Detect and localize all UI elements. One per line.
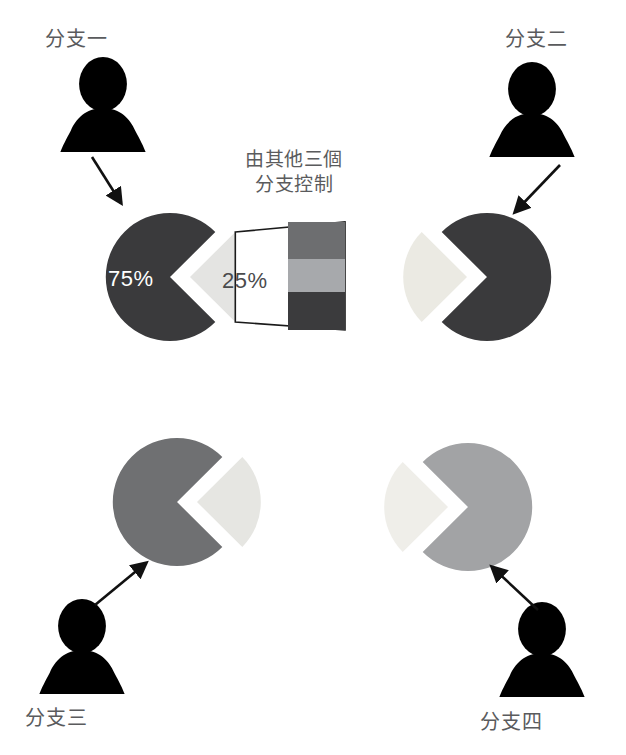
- pie-1-major-value: 75%: [108, 268, 154, 290]
- arrow-branch-2: [515, 165, 560, 212]
- pie-3-major-slice: [113, 438, 223, 566]
- callout-stacked-bar: [288, 222, 345, 330]
- callout-caption-line-2: 分支控制: [228, 172, 360, 197]
- pie-4-major-slice: [423, 443, 533, 571]
- arrow-branch-3: [95, 563, 146, 605]
- pie-2-major-slice: [442, 213, 552, 341]
- pie-4-minor-slice: [384, 462, 448, 552]
- callout-caption-line-1: 由其他三個: [228, 147, 360, 172]
- branch-label-1: 分支一: [45, 29, 108, 49]
- branch-label-2: 分支二: [505, 29, 568, 49]
- arrow-branch-4: [492, 567, 538, 610]
- branch-label-3: 分支三: [25, 708, 88, 728]
- callout-caption: 由其他三個 分支控制: [228, 147, 360, 197]
- pie-branch-2: [403, 213, 551, 341]
- avatar-branch-4: [499, 602, 584, 697]
- avatar-branch-1: [60, 57, 145, 152]
- avatar-branch-3: [39, 599, 124, 694]
- pie-2-minor-slice: [403, 232, 467, 322]
- cut-off-header-text: ​: [38, 0, 338, 3]
- callout-segment-bottom: [288, 292, 345, 330]
- diagram-graphics: [0, 0, 626, 755]
- arrow-branch-1: [92, 157, 121, 203]
- avatar-branch-2: [489, 62, 574, 157]
- pie-branch-4: [384, 443, 532, 571]
- callout-segment-top: [288, 222, 345, 259]
- pie-branch-3: [113, 438, 261, 566]
- callout-segment-middle: [288, 259, 345, 292]
- pie-1-minor-value: 25%: [222, 270, 268, 292]
- diagram-canvas: ​: [0, 0, 626, 755]
- pie-3-minor-slice: [197, 457, 261, 547]
- branch-label-4: 分支四: [480, 712, 543, 732]
